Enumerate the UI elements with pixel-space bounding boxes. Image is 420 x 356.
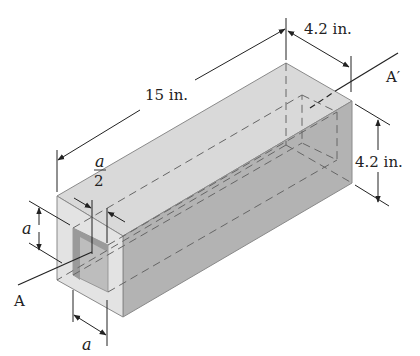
height-label: 4.2 in. (355, 153, 403, 171)
tube-body (57, 63, 352, 317)
a-horizontal-label: a (82, 335, 92, 354)
length-label: 15 in. (145, 86, 188, 104)
half-a-numerator: a (95, 152, 105, 171)
width-label: 4.2 in. (304, 20, 352, 38)
half-a-denominator: 2 (94, 172, 104, 190)
a-vertical-label: a (22, 219, 32, 238)
axis-label-end: A′ (385, 68, 401, 86)
tube-diagram: A A′ 15 in. 4.2 in. 4.2 in. a 2 a (0, 0, 420, 356)
axis-label-start: A (13, 292, 25, 310)
